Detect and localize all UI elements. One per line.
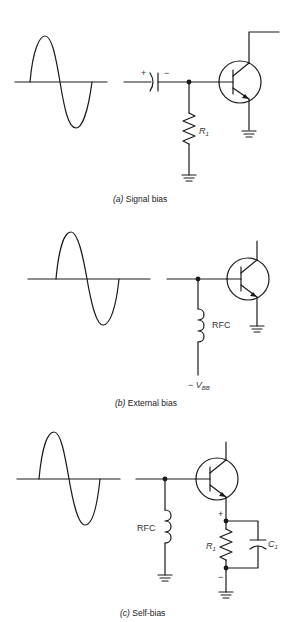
sine-wave-a	[15, 36, 107, 128]
rfc-inductor-icon	[165, 510, 171, 543]
circuit-figure: + − R1 (a) Signal bias	[0, 0, 294, 622]
rfc-label: RFC	[137, 523, 156, 533]
plus-label: +	[218, 509, 223, 519]
npn-transistor-icon	[227, 241, 269, 326]
npn-transistor-icon	[219, 32, 279, 130]
rfc-label: RFC	[212, 320, 231, 330]
r1-label: R1	[199, 126, 209, 137]
ground-icon	[158, 575, 172, 581]
caption-b: (b) External bias	[115, 398, 177, 408]
resistor-r1-icon	[220, 529, 232, 560]
sine-wave-b	[28, 232, 150, 325]
caption-c: (c) Self-bias	[120, 608, 165, 618]
rfc-inductor-icon	[198, 309, 204, 342]
r1-label: R1	[206, 541, 216, 552]
ground-icon	[250, 326, 264, 332]
minus-label: −	[218, 572, 223, 582]
capacitor-minus-label: −	[164, 68, 169, 78]
ground-icon	[242, 131, 256, 137]
sine-wave-c	[17, 432, 120, 525]
junction-dot	[224, 566, 229, 571]
npn-transistor-icon	[196, 442, 238, 521]
ground-icon	[182, 175, 196, 181]
c1-label: C1	[268, 539, 278, 550]
panel-b-external-bias: RFC − VBB (b) External bias	[28, 232, 269, 408]
panel-c-self-bias: RFC + C1 R1 −	[17, 432, 278, 618]
panel-a-signal-bias: + − R1 (a) Signal bias	[15, 32, 279, 204]
resistor-r1-icon	[183, 113, 195, 144]
ground-icon	[219, 592, 233, 598]
vbb-label: − VBB	[188, 380, 210, 391]
caption-a: (a) Signal bias	[113, 194, 167, 204]
capacitor-plus-label: +	[141, 68, 146, 78]
